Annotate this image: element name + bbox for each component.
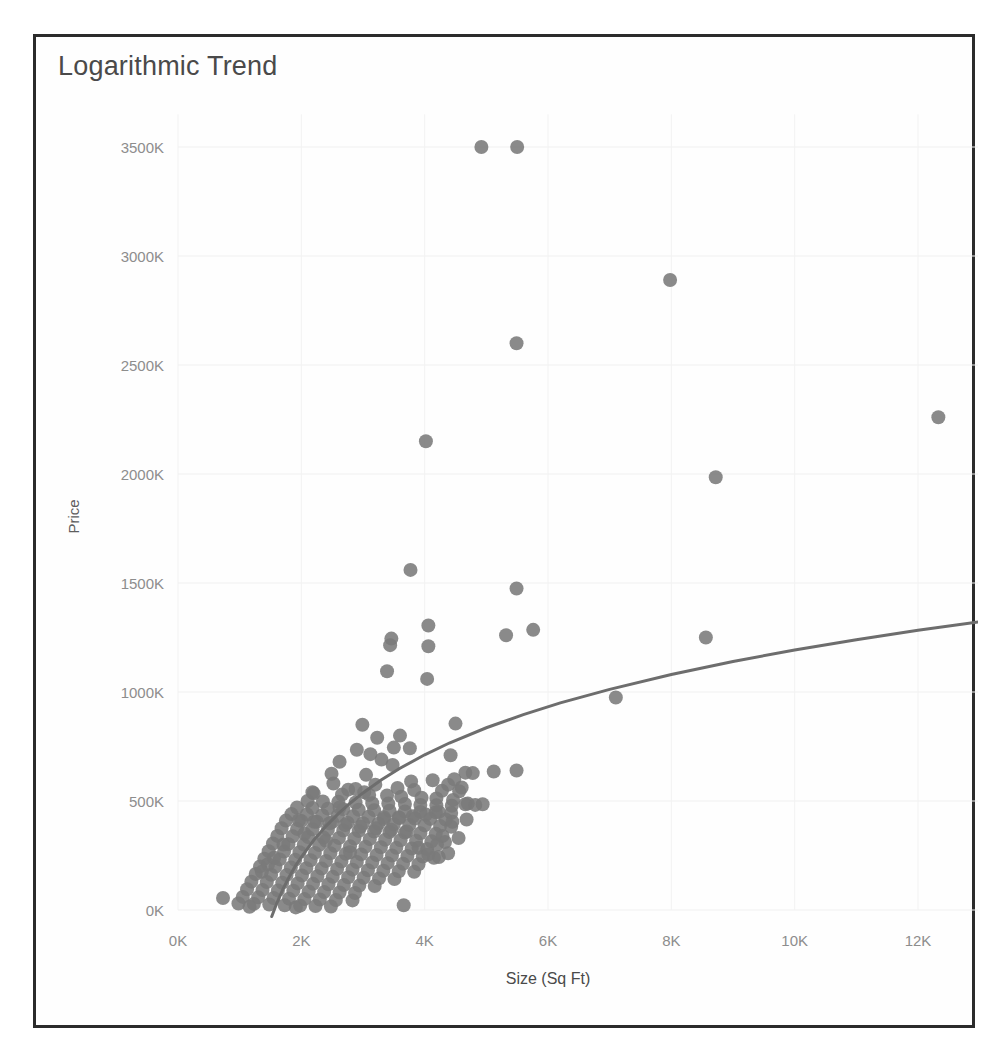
data-point[interactable] xyxy=(324,900,338,914)
scatter-plot-canvas xyxy=(36,37,978,1031)
data-point[interactable] xyxy=(325,767,339,781)
y-axis-tick-3000K: 3000K xyxy=(96,248,164,265)
data-point[interactable] xyxy=(393,729,407,743)
data-point[interactable] xyxy=(355,718,369,732)
data-point[interactable] xyxy=(383,638,397,652)
data-point[interactable] xyxy=(343,845,357,859)
x-axis-tick-4K: 4K xyxy=(415,932,433,949)
data-point[interactable] xyxy=(305,785,319,799)
data-point[interactable] xyxy=(392,810,406,824)
data-point[interactable] xyxy=(243,900,257,914)
x-axis-tick-12K: 12K xyxy=(905,932,932,949)
data-point[interactable] xyxy=(460,813,474,827)
data-point[interactable] xyxy=(346,893,360,907)
x-axis-tick-8K: 8K xyxy=(662,932,680,949)
data-point[interactable] xyxy=(419,434,433,448)
data-point[interactable] xyxy=(455,780,469,794)
x-axis-tick-6K: 6K xyxy=(539,932,557,949)
data-point[interactable] xyxy=(444,748,458,762)
data-point[interactable] xyxy=(400,825,414,839)
data-point[interactable] xyxy=(307,815,321,829)
data-point[interactable] xyxy=(663,273,677,287)
x-axis-tick-2K: 2K xyxy=(292,932,310,949)
data-point[interactable] xyxy=(406,809,420,823)
x-axis-title: Size (Sq Ft) xyxy=(506,970,590,988)
data-point[interactable] xyxy=(510,581,524,595)
data-point[interactable] xyxy=(333,755,347,769)
data-point[interactable] xyxy=(407,865,421,879)
x-axis-tick-10K: 10K xyxy=(781,932,808,949)
y-axis-tick-2000K: 2000K xyxy=(96,466,164,483)
gridlines xyxy=(178,114,978,910)
data-point[interactable] xyxy=(441,778,455,792)
data-point[interactable] xyxy=(216,891,230,905)
data-point[interactable] xyxy=(466,766,480,780)
data-point[interactable] xyxy=(426,773,440,787)
data-point[interactable] xyxy=(452,831,466,845)
data-point[interactable] xyxy=(309,899,323,913)
data-point[interactable] xyxy=(403,741,417,755)
data-point[interactable] xyxy=(292,813,306,827)
y-axis-tick-3500K: 3500K xyxy=(96,139,164,156)
data-point[interactable] xyxy=(510,336,524,350)
data-point[interactable] xyxy=(397,898,411,912)
y-axis-title: Price xyxy=(65,481,82,551)
data-point[interactable] xyxy=(403,563,417,577)
data-point[interactable] xyxy=(510,763,524,777)
data-point[interactable] xyxy=(380,664,394,678)
data-point[interactable] xyxy=(449,717,463,731)
data-point[interactable] xyxy=(432,805,446,819)
data-point[interactable] xyxy=(267,851,281,865)
data-point[interactable] xyxy=(319,834,333,848)
data-point[interactable] xyxy=(487,765,501,779)
data-point[interactable] xyxy=(931,410,945,424)
data-point[interactable] xyxy=(421,847,435,861)
data-point[interactable] xyxy=(255,865,269,879)
data-point[interactable] xyxy=(338,818,352,832)
data-point[interactable] xyxy=(468,798,482,812)
data-point[interactable] xyxy=(368,879,382,893)
data-point[interactable] xyxy=(377,812,391,826)
data-point[interactable] xyxy=(387,872,401,886)
data-point[interactable] xyxy=(276,838,290,852)
data-point[interactable] xyxy=(289,900,303,914)
data-point[interactable] xyxy=(499,628,513,642)
data-point[interactable] xyxy=(526,623,540,637)
data-point[interactable] xyxy=(370,731,384,745)
data-point[interactable] xyxy=(474,140,488,154)
data-point[interactable] xyxy=(441,846,455,860)
data-point[interactable] xyxy=(609,690,623,704)
data-point[interactable] xyxy=(421,639,435,653)
data-point[interactable] xyxy=(350,743,364,757)
data-point[interactable] xyxy=(709,470,723,484)
data-point[interactable] xyxy=(436,829,450,843)
data-point[interactable] xyxy=(699,631,713,645)
data-point[interactable] xyxy=(420,672,434,686)
data-point[interactable] xyxy=(359,768,373,782)
data-point[interactable] xyxy=(421,619,435,633)
y-axis-tick-1500K: 1500K xyxy=(96,575,164,592)
data-point[interactable] xyxy=(297,827,311,841)
data-point[interactable] xyxy=(354,820,368,834)
data-point[interactable] xyxy=(510,140,524,154)
data-point[interactable] xyxy=(419,808,433,822)
data-point[interactable] xyxy=(445,815,459,829)
x-axis-tick-0K: 0K xyxy=(169,932,187,949)
data-point[interactable] xyxy=(387,741,401,755)
y-axis-tick-2500K: 2500K xyxy=(96,357,164,374)
scatter-plot-area[interactable]: 0K500K1000K1500K2000K2500K3000K3500K 0K2… xyxy=(36,37,978,1031)
chart-frame: Logarithmic Trend 0K500K1000K1500K2000K2… xyxy=(33,34,975,1028)
y-axis-tick-0K: 0K xyxy=(96,902,164,919)
y-axis-tick-1000K: 1000K xyxy=(96,684,164,701)
y-axis-tick-500K: 500K xyxy=(96,793,164,810)
